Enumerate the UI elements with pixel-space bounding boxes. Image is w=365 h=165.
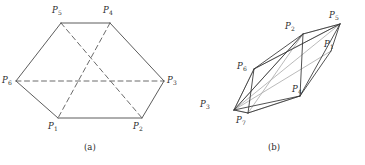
vertex-label-P6: P6 — [2, 76, 12, 85]
edge-P2-P6 — [254, 34, 303, 69]
panel-a-drawing — [0, 0, 182, 165]
edge-P4-P3 — [234, 96, 300, 110]
vertex-label-P2: P2 — [133, 122, 143, 131]
vertex-label-P3: P3 — [167, 76, 177, 85]
panel-a-caption: (a) — [84, 143, 96, 152]
panel-b: P5P2P1P6P4P3P7 (b) — [182, 0, 365, 165]
edge-P5-P6 — [16, 23, 61, 81]
edge-P4-P7 — [248, 96, 300, 113]
vertex-label-P2: P2 — [285, 22, 295, 31]
panel-b-caption: (b) — [268, 143, 280, 152]
vertex-label-P1: P1 — [48, 122, 58, 131]
vertex-label-P5: P5 — [52, 6, 62, 15]
panel-a-solid-edges — [16, 23, 164, 118]
panel-a: P5P4P6P3P1P2 (a) — [0, 0, 182, 165]
edge-P3-P7 — [234, 110, 248, 113]
vertex-label-P7: P7 — [236, 116, 246, 125]
panel-b-drawing — [182, 0, 365, 165]
edge-P6-P1 — [16, 81, 58, 118]
vertex-label-P4: P4 — [103, 6, 113, 15]
edge-P4-P1 — [58, 23, 110, 118]
edge-P5-P2 — [61, 23, 142, 118]
vertex-label-P4: P4 — [292, 85, 302, 94]
edge-P4-P3 — [110, 23, 164, 81]
figure-root: P5P4P6P3P1P2 (a) P5P2P1P6P4P3P7 (b) — [0, 0, 365, 165]
vertex-label-P3: P3 — [200, 100, 210, 109]
vertex-label-P6: P6 — [237, 62, 247, 71]
vertex-label-P1: P1 — [324, 40, 334, 49]
edge-P1-P4 — [300, 51, 331, 96]
edge-P3-P2 — [142, 81, 164, 118]
vertex-label-P5: P5 — [329, 11, 339, 20]
panel-a-dashed-edges — [16, 23, 164, 118]
